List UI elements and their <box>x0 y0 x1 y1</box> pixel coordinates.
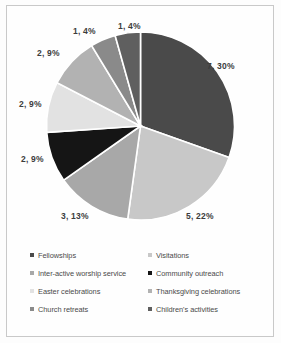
legend-swatch-icon <box>30 253 34 257</box>
legend-label: Church retreats <box>38 305 88 314</box>
pie-slices-svg <box>0 0 281 240</box>
legend-label: Community outreach <box>156 269 223 278</box>
data-label-easter-celebrations: 2, 9% <box>19 99 42 109</box>
legend-item-visitations[interactable]: Visitations <box>148 251 258 260</box>
legend-swatch-icon <box>148 271 152 275</box>
pie-chart-area: 7, 30% 5, 22% 3, 13% 2, 9% 2, 9% 2, 9% 1… <box>0 0 281 240</box>
legend-item-thanksgiving-celebrations[interactable]: Thanksgiving celebrations <box>148 287 258 296</box>
legend-swatch-icon <box>30 271 34 275</box>
chart-legend: FellowshipsVisitationsInter-active worsh… <box>30 246 258 328</box>
legend-item-church-retreats[interactable]: Church retreats <box>30 305 148 314</box>
legend-label: Children's activities <box>156 305 218 314</box>
legend-label: Fellowships <box>38 251 76 260</box>
legend-label: Thanksgiving celebrations <box>156 287 240 296</box>
legend-swatch-icon <box>30 289 34 293</box>
legend-label: Easter celebrations <box>38 287 100 296</box>
data-label-community-outreach: 2, 9% <box>21 154 44 164</box>
legend-item-community-outreach[interactable]: Community outreach <box>148 269 258 278</box>
data-label-childrens-activities: 1, 4% <box>118 21 141 31</box>
legend-item-fellowships[interactable]: Fellowships <box>30 251 148 260</box>
legend-label: Inter-active worship service <box>38 269 126 278</box>
legend-swatch-icon <box>148 253 152 257</box>
data-label-thanksgiving-celebrations: 2, 9% <box>37 48 60 58</box>
legend-swatch-icon <box>148 307 152 311</box>
legend-swatch-icon <box>148 289 152 293</box>
data-label-interactive-worship-service: 3, 13% <box>61 211 89 221</box>
legend-item-inter-active-worship-service[interactable]: Inter-active worship service <box>30 269 148 278</box>
legend-row: Easter celebrationsThanksgiving celebrat… <box>30 282 258 300</box>
legend-row: Inter-active worship serviceCommunity ou… <box>30 264 258 282</box>
pie-chart-figure: 7, 30% 5, 22% 3, 13% 2, 9% 2, 9% 2, 9% 1… <box>0 0 281 343</box>
legend-swatch-icon <box>30 307 34 311</box>
data-label-visitations: 5, 22% <box>186 211 214 221</box>
legend-label: Visitations <box>156 251 189 260</box>
legend-row: FellowshipsVisitations <box>30 246 258 264</box>
legend-item-easter-celebrations[interactable]: Easter celebrations <box>30 287 148 296</box>
data-label-fellowships: 7, 30% <box>207 61 235 71</box>
data-label-church-retreats: 1, 4% <box>73 26 96 36</box>
legend-row: Church retreatsChildren's activities <box>30 300 258 318</box>
legend-item-children-s-activities[interactable]: Children's activities <box>148 305 258 314</box>
